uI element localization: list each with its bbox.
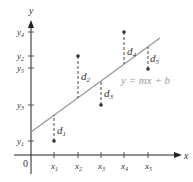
x-axis-arrow-icon	[174, 152, 182, 158]
y-axis-arrow-icon	[28, 20, 34, 28]
data-point	[99, 103, 103, 107]
y-tick-label: y4	[16, 27, 24, 38]
x-tick-label: x5	[144, 161, 152, 172]
x-tick-label: x2	[74, 161, 82, 172]
deviation-label: d2	[81, 70, 91, 84]
deviation-label: d5	[150, 52, 160, 66]
deviation-lines	[54, 32, 148, 141]
x-axis-label: x	[183, 150, 189, 161]
least-squares-diagram: y x 0 x1 x2 x3 x4 x5 y4 y2 y5 y3 y1 d1 d…	[0, 0, 193, 182]
y-tick-labels: y4 y2 y5 y3 y1	[16, 27, 24, 147]
x-tick-labels: x1 x2 x3 x4 x5	[50, 161, 152, 172]
data-points	[52, 30, 150, 143]
y-axis	[28, 20, 34, 174]
data-point	[52, 139, 56, 143]
origin-label: 0	[23, 158, 28, 169]
data-point	[122, 30, 126, 34]
y-tick-label: y1	[16, 136, 24, 147]
deviation-label: d1	[57, 124, 66, 138]
y-axis-label: y	[28, 5, 34, 16]
x-tick-label: x4	[120, 161, 128, 172]
deviation-label: d4	[127, 45, 137, 59]
y-tick-label: y2	[16, 51, 24, 62]
data-point	[76, 54, 80, 58]
deviation-labels: d1 d2 d3 d4 d5	[57, 45, 160, 138]
y-tick-label: y3	[16, 100, 24, 111]
line-equation: y = mx + b	[120, 74, 171, 86]
x-tick-label: x1	[50, 161, 58, 172]
x-tick-label: x3	[97, 161, 105, 172]
deviation-label: d3	[104, 87, 114, 101]
y-tick-label: y5	[16, 63, 24, 74]
data-point	[146, 67, 150, 71]
x-axis	[14, 152, 182, 158]
